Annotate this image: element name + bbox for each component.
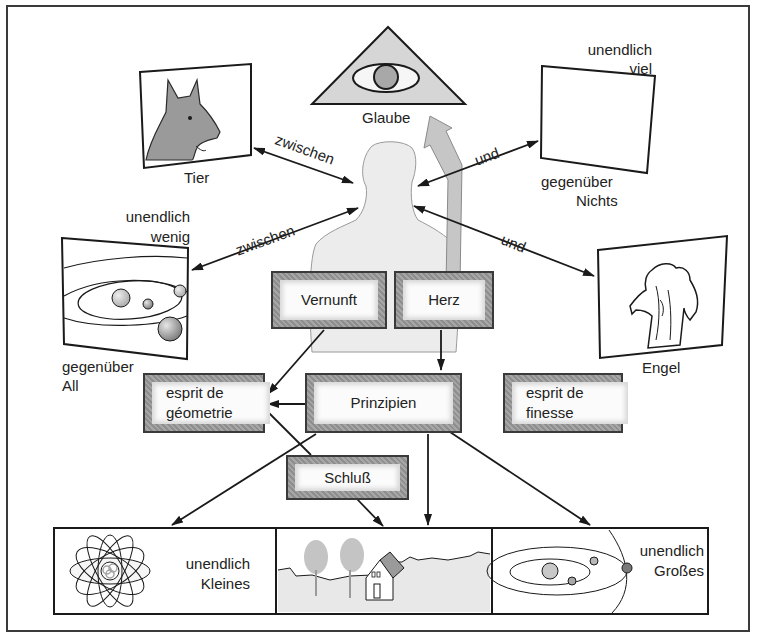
box-herz: Herz <box>394 271 494 329</box>
gross-line1: unendlich <box>608 541 704 560</box>
box-esprit-finesse-text: esprit de finesse <box>512 382 628 424</box>
box-vernunft: Vernunft <box>271 271 387 329</box>
eye-triangle-icon <box>312 27 465 104</box>
all-above-line1: unendlich <box>96 207 190 226</box>
box-prinzipien-label: Prinzipien <box>314 382 453 424</box>
angel-picture-icon <box>598 236 727 358</box>
box-esprit-geometrie: esprit de géometrie <box>143 373 265 433</box>
box-schluss-label: Schluß <box>295 464 400 491</box>
planets-picture-icon <box>62 238 188 359</box>
glaube-label: Glaube <box>362 108 410 127</box>
nichts-picture-icon <box>541 66 655 173</box>
box-prinzipien: Prinzipien <box>305 373 462 433</box>
box-schluss: Schluß <box>286 455 409 500</box>
nichts-above-line1: unendlich <box>560 40 652 59</box>
all-above-line2: wenig <box>96 227 190 246</box>
all-below-line1: gegenüber <box>62 357 134 376</box>
engel-label: Engel <box>642 358 680 377</box>
dog-picture-icon <box>140 64 251 168</box>
klein-line2: Kleines <box>150 574 250 593</box>
diagram-canvas: Glaube Tier unendlich viel gegenüber Nic… <box>0 0 761 637</box>
box-esprit-geometrie-text: esprit de géometrie <box>152 382 270 424</box>
all-below-line2: All <box>62 376 79 395</box>
tier-label: Tier <box>184 168 209 187</box>
arrow-schluss-landscape <box>357 499 383 526</box>
esprit-finesse-line2: finesse <box>526 403 574 423</box>
box-esprit-finesse: esprit de finesse <box>503 373 623 433</box>
box-herz-label: Herz <box>403 280 485 320</box>
nichts-below-line1: gegenüber <box>541 172 613 191</box>
nichts-below-line2: Nichts <box>576 191 618 210</box>
esprit-geometrie-line1: esprit de <box>166 383 224 403</box>
klein-line1: unendlich <box>150 554 250 573</box>
nichts-above-line2: viel <box>560 59 652 78</box>
esprit-finesse-line1: esprit de <box>526 383 584 403</box>
arrow-prinzipien-gross <box>450 432 590 525</box>
box-vernunft-label: Vernunft <box>280 280 378 320</box>
esprit-geometrie-line2: géometrie <box>166 403 233 423</box>
gross-line2: Großes <box>608 561 704 580</box>
